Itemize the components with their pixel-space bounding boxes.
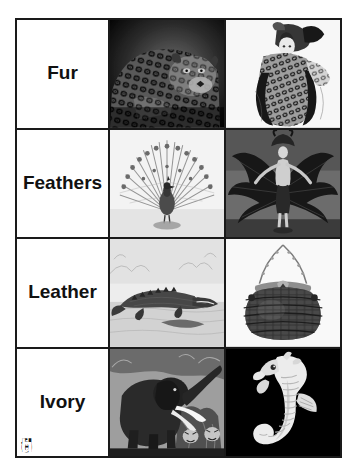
panel-h-image [226, 349, 340, 457]
panel-d-cell[interactable]: d [225, 129, 341, 239]
elephant-illustration [110, 349, 224, 457]
row-label-leather: Leather [16, 238, 109, 348]
table-row: Fur [16, 19, 341, 129]
table-row: Feathers [16, 129, 341, 239]
alligator-illustration [110, 239, 224, 347]
panel-f-image [226, 239, 340, 347]
row-label-fur: Fur [16, 19, 109, 129]
figure-root: Fur [0, 0, 347, 473]
ivory-seahorse-carving [226, 349, 340, 457]
peacock-illustration [110, 130, 224, 238]
panel-c-cell[interactable]: c [109, 129, 225, 239]
panel-b-cell[interactable]: b [225, 19, 341, 129]
panel-e-image [110, 239, 224, 347]
row-label-feathers: Feathers [16, 129, 109, 239]
feather-costume-illustration [226, 130, 340, 238]
panel-c-image [110, 130, 224, 238]
panel-e-cell[interactable]: e [109, 238, 225, 348]
panel-b-image [226, 20, 340, 128]
fur-coat-illustration [226, 20, 340, 128]
leather-handbag-illustration [226, 239, 340, 347]
panel-f-cell[interactable]: f [225, 238, 341, 348]
table-row: Leather [16, 238, 341, 348]
panel-a-image [110, 20, 224, 128]
panel-g-image [110, 349, 224, 457]
table-row: Ivory [16, 348, 341, 458]
panel-g-cell[interactable]: g [109, 348, 225, 458]
panel-a-cell[interactable]: a [109, 19, 225, 129]
panel-d-image [226, 130, 340, 238]
category-materials-grid: Fur [15, 18, 342, 458]
leopard-illustration [110, 20, 224, 128]
panel-h-cell[interactable]: h [225, 348, 341, 458]
